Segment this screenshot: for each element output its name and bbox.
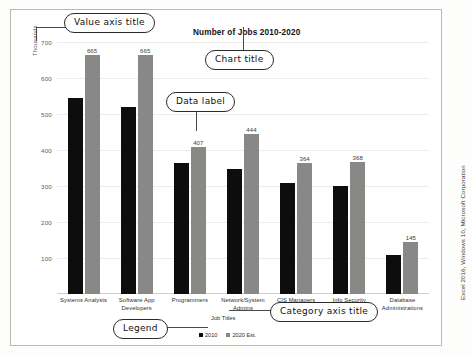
legend-swatch-icon xyxy=(199,333,203,337)
category-axis-label: Database Administrations xyxy=(376,297,429,312)
bar-2020[interactable]: 364 xyxy=(297,163,312,294)
bar-2020[interactable]: 145 xyxy=(403,242,418,294)
chart-title: Number of Jobs 2010-2020 xyxy=(193,28,300,37)
leader-line-value-axis xyxy=(36,27,37,41)
data-label: 665 xyxy=(87,48,97,54)
bar-group: 444 xyxy=(216,42,269,294)
value-axis-tick-label: 500 xyxy=(41,111,52,118)
data-label: 407 xyxy=(193,140,203,146)
leader-line-chart-title xyxy=(243,27,244,51)
bar-2010[interactable] xyxy=(227,169,242,294)
bar-2020[interactable]: 665 xyxy=(138,55,153,294)
leader-line-value-axis-h xyxy=(36,27,68,28)
screenshot-root: Number of Jobs 2010-2020 Thousands 70060… xyxy=(0,0,472,355)
bar-2010[interactable] xyxy=(68,98,83,294)
bar-series-container: 665665407444364368145 xyxy=(57,42,429,294)
data-label: 364 xyxy=(299,156,309,162)
bar-2010[interactable] xyxy=(280,183,295,294)
value-axis-tick-label: 600 xyxy=(41,75,52,82)
credit-text: Excel 2016, Windows 10, Microsoft Corpor… xyxy=(459,165,466,300)
value-axis-tick-label: 300 xyxy=(41,183,52,190)
bar-2020[interactable]: 665 xyxy=(85,55,100,294)
bar-group: 368 xyxy=(323,42,376,294)
bar-group: 665 xyxy=(57,42,110,294)
category-axis-label: Programmers xyxy=(163,297,216,312)
data-label: 145 xyxy=(406,235,416,241)
value-axis-tick-label: 100 xyxy=(41,255,52,262)
category-axis-title-text: Job Titles xyxy=(211,315,236,321)
legend-item-2020: 2020 Est. xyxy=(226,332,256,338)
legend-swatch-icon xyxy=(226,333,230,337)
category-axis-label: Systems Analysts xyxy=(57,297,110,312)
callout-data-label: Data label xyxy=(166,92,235,112)
data-label: 444 xyxy=(246,127,256,133)
bar-2020[interactable]: 368 xyxy=(350,162,365,294)
legend-label: 2010 xyxy=(205,332,217,338)
bar-2010[interactable] xyxy=(386,255,401,294)
leader-line-data-label xyxy=(196,110,197,131)
value-axis-tick-label: 200 xyxy=(41,219,52,226)
leader-line-category-axis xyxy=(229,310,273,311)
callout-value-axis-title: Value axis title xyxy=(64,13,155,33)
bar-2010[interactable] xyxy=(121,107,136,294)
chart-legend: 2010 2020 Est. xyxy=(199,332,256,338)
category-axis-label: Software App Developers xyxy=(110,297,163,312)
legend-item-2010: 2010 xyxy=(199,332,217,338)
value-axis-tick-label: 700 xyxy=(41,39,52,46)
data-label: 368 xyxy=(353,155,363,161)
bar-group: 145 xyxy=(376,42,429,294)
bar-2020[interactable]: 444 xyxy=(244,134,259,294)
value-axis-title-text: Thousands xyxy=(32,25,38,56)
data-label: 665 xyxy=(140,48,150,54)
callout-legend: Legend xyxy=(113,319,168,339)
bar-2010[interactable] xyxy=(174,163,189,294)
bar-2020[interactable]: 407 xyxy=(191,147,206,294)
value-axis-tick-label: 400 xyxy=(41,147,52,154)
callout-chart-title: Chart title xyxy=(205,50,274,70)
bar-2010[interactable] xyxy=(333,186,348,294)
plot-area: 700600500400300200100 665665407444364368… xyxy=(57,42,429,294)
callout-category-axis-title: Category axis title xyxy=(270,302,378,322)
bar-group: 665 xyxy=(110,42,163,294)
bar-group: 364 xyxy=(270,42,323,294)
bar-group: 407 xyxy=(163,42,216,294)
legend-label: 2020 Est. xyxy=(232,332,256,338)
